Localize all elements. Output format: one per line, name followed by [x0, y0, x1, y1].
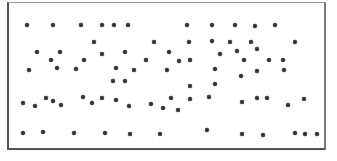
star-center — [128, 132, 132, 136]
star-center — [114, 98, 118, 102]
star-center — [213, 82, 217, 86]
star-center — [188, 58, 192, 62]
star-center — [210, 39, 214, 43]
star-center — [255, 96, 259, 100]
star-center — [41, 130, 45, 134]
star-center — [188, 97, 192, 101]
star-center — [188, 84, 192, 88]
star-center — [158, 132, 162, 136]
star-center — [207, 95, 211, 99]
star-center — [149, 102, 153, 106]
star-center — [132, 68, 136, 72]
star-center — [253, 24, 257, 28]
star-center — [293, 131, 297, 135]
star-center — [185, 23, 189, 27]
star-center — [127, 104, 131, 108]
star-center — [302, 97, 306, 101]
star-center — [79, 23, 83, 27]
star-center — [72, 131, 76, 135]
star-center — [255, 47, 259, 51]
star-center — [51, 23, 55, 27]
star-center — [187, 40, 191, 44]
star-center — [59, 103, 63, 107]
star-center — [235, 49, 239, 53]
star-center — [255, 69, 259, 73]
star-center — [261, 133, 265, 137]
star-center — [265, 96, 269, 100]
star-center — [286, 103, 290, 107]
star-center — [210, 23, 214, 27]
star-center — [228, 40, 232, 44]
star-center — [273, 23, 277, 27]
star-center — [240, 132, 244, 136]
star-center — [81, 95, 85, 99]
star-field — [0, 0, 337, 161]
star-center — [218, 52, 222, 56]
star-center — [240, 100, 244, 104]
star-center — [177, 59, 181, 63]
star-center — [21, 131, 25, 135]
star-center — [100, 23, 104, 27]
star-center — [111, 79, 115, 83]
star-center — [249, 40, 253, 44]
star-center — [92, 40, 96, 44]
star-center — [126, 23, 130, 27]
star-center — [35, 50, 39, 54]
star-center — [315, 132, 319, 136]
star-center — [303, 132, 307, 136]
star-center — [205, 128, 209, 132]
star-center — [161, 106, 165, 110]
star-center — [123, 79, 127, 83]
star-center — [49, 58, 53, 62]
star-center — [144, 58, 148, 62]
star-center — [239, 74, 243, 78]
star-center — [167, 50, 171, 54]
star-center — [176, 108, 180, 112]
star-center — [74, 67, 78, 71]
star-center — [103, 131, 107, 135]
star-center — [51, 99, 55, 103]
star-center — [58, 50, 62, 54]
star-center — [100, 96, 104, 100]
star-center — [55, 66, 59, 70]
star-center — [281, 58, 285, 62]
star-center — [82, 58, 86, 62]
star-center — [112, 23, 116, 27]
star-center — [21, 101, 25, 105]
star-center — [282, 68, 286, 72]
star-center — [114, 66, 118, 70]
star-center — [293, 40, 297, 44]
star-center — [27, 68, 31, 72]
star-center — [267, 58, 271, 62]
star-center — [165, 68, 169, 72]
star-center — [123, 50, 127, 54]
star-center — [100, 52, 104, 56]
star-center — [169, 96, 173, 100]
star-center — [242, 58, 246, 62]
star-center — [152, 40, 156, 44]
star-center — [25, 23, 29, 27]
star-center — [90, 101, 94, 105]
star-center — [213, 67, 217, 71]
star-center — [233, 23, 237, 27]
star-center — [44, 96, 48, 100]
star-center — [33, 104, 37, 108]
